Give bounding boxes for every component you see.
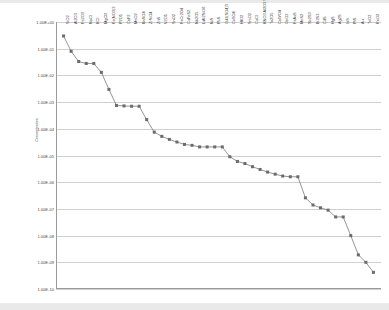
data-point-marker (175, 141, 178, 144)
data-point-marker (145, 118, 148, 121)
bottom-edge-artifact (0, 303, 389, 310)
data-point-marker (319, 206, 322, 209)
data-point-marker (296, 175, 299, 178)
data-point-marker (311, 204, 314, 207)
y-tick-label: 1.00E-03 (14, 100, 54, 105)
data-point-marker (357, 253, 360, 256)
y-tick-label: 1.00E-06 (14, 180, 54, 185)
y-tick-label: 1.00E-09 (14, 260, 54, 265)
data-point-marker (191, 144, 194, 147)
data-point-marker (243, 162, 246, 165)
data-point-marker (160, 135, 163, 138)
category-label: Gd2(SO4)3 (224, 4, 229, 24)
y-tick-label: 1.00E-08 (14, 233, 54, 238)
data-point-marker (115, 104, 118, 107)
data-point-marker (70, 50, 73, 53)
series-line (64, 36, 374, 272)
y-tick-label: 1.00E-07 (14, 206, 54, 211)
data-point-marker (168, 138, 171, 141)
data-point-marker (327, 209, 330, 212)
data-point-marker (274, 173, 277, 176)
data-point-marker (228, 155, 231, 158)
y-tick-label: 1.00E-10 (14, 287, 54, 292)
gridline (56, 289, 381, 290)
data-point-marker (251, 165, 254, 168)
data-point-marker (364, 261, 367, 264)
data-point-marker (304, 196, 307, 199)
data-point-marker (259, 168, 262, 171)
data-point-marker (198, 145, 201, 148)
data-point-marker (342, 215, 345, 218)
data-point-marker (130, 105, 133, 108)
y-tick-label: 1.00E-04 (14, 126, 54, 131)
data-point-marker (100, 71, 103, 74)
y-tick-label: 1.00E+00 (14, 20, 54, 25)
data-series (56, 22, 381, 289)
y-tick-label: 1.00E-05 (14, 153, 54, 158)
y-tick-label: 1.00E-01 (14, 46, 54, 51)
y-tick-label: 1.00E-02 (14, 73, 54, 78)
top-edge-artifact (0, 0, 389, 3)
data-point-marker (92, 62, 95, 65)
data-point-marker (85, 62, 88, 65)
data-point-marker (289, 175, 292, 178)
data-point-marker (123, 104, 126, 107)
data-point-marker (213, 145, 216, 148)
data-point-marker (334, 215, 337, 218)
data-point-marker (372, 271, 375, 274)
data-point-marker (349, 234, 352, 237)
data-point-marker (138, 105, 141, 108)
concentration-log-chart: Concentration 1.00E+001.00E-011.00E-021.… (0, 0, 389, 310)
data-point-marker (183, 143, 186, 146)
data-point-marker (266, 171, 269, 174)
data-point-marker (206, 145, 209, 148)
plot-area: SiO2Al2O3Fe2O3NaClKClMgCl2Fe(NO3)3P2O5Ca… (56, 22, 381, 289)
data-point-marker (281, 175, 284, 178)
data-point-marker (77, 60, 80, 63)
data-point-marker (221, 145, 224, 148)
data-point-marker (236, 160, 239, 163)
data-point-marker (62, 34, 65, 37)
data-point-marker (107, 88, 110, 91)
data-point-marker (153, 131, 156, 134)
category-label: KNO3 Al2O3 SiO2 (262, 0, 267, 24)
